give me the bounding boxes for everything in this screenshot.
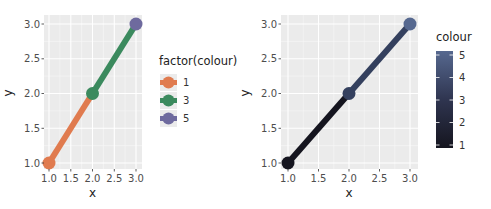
legend-label: 1 <box>183 77 189 88</box>
x-tick-label: 3.0 <box>128 173 144 184</box>
x-tick-label: 2.5 <box>106 173 122 184</box>
x-tick-label: 1.0 <box>41 173 57 184</box>
y-axis-title: y <box>238 89 252 96</box>
colourbar-label: 5 <box>459 50 465 61</box>
legend-label: 3 <box>183 95 189 106</box>
legend-title: factor(colour) <box>159 54 237 68</box>
colourbar <box>436 51 453 148</box>
legend-key: 3 <box>160 92 189 109</box>
data-point <box>130 18 143 31</box>
y-tick-label: 2.5 <box>261 53 277 64</box>
x-axis-2: 1.0 1.5 2.0 2.5 3.0 x <box>280 169 418 200</box>
legend-title: colour <box>436 30 472 44</box>
y-tick-label: 1.5 <box>261 123 277 134</box>
legend-label: 5 <box>183 113 189 124</box>
x-tick-label: 2.5 <box>372 173 388 184</box>
colourbar-label: 3 <box>459 95 465 106</box>
data-point <box>86 87 99 100</box>
chart-1: 1.0 1.5 2.0 2.5 3.0 y 1.0 1.5 2.0 2.5 3.… <box>1 15 237 200</box>
y-tick-label: 1.0 <box>261 158 277 169</box>
legend-key: 5 <box>160 110 189 127</box>
data-point <box>43 157 56 170</box>
colourbar-label: 2 <box>459 117 465 128</box>
y-tick-label: 1.0 <box>24 158 40 169</box>
y-axis-2: 1.0 1.5 2.0 2.5 3.0 y <box>238 19 281 169</box>
x-axis-title: x <box>345 186 352 200</box>
chart-2: 1.0 1.5 2.0 2.5 3.0 y 1.0 1.5 2.0 2.5 3.… <box>238 15 472 200</box>
figure: 1.0 1.5 2.0 2.5 3.0 y 1.0 1.5 2.0 2.5 3.… <box>0 0 491 209</box>
x-tick-label: 1.5 <box>311 173 327 184</box>
x-tick-label: 1.5 <box>63 173 79 184</box>
data-point <box>282 157 295 170</box>
data-point <box>343 87 356 100</box>
y-tick-label: 2.5 <box>24 53 40 64</box>
y-axis-title: y <box>1 89 15 96</box>
x-tick-label: 1.0 <box>280 173 296 184</box>
colourbar-label: 4 <box>459 72 465 83</box>
y-tick-label: 2.0 <box>261 88 277 99</box>
y-tick-label: 1.5 <box>24 123 40 134</box>
data-point <box>404 18 417 31</box>
legend-key: 1 <box>160 74 189 91</box>
x-tick-label: 2.0 <box>341 173 357 184</box>
x-tick-label: 2.0 <box>85 173 101 184</box>
legend-2: colour 1 2 3 4 5 <box>436 30 472 151</box>
y-tick-label: 3.0 <box>261 19 277 30</box>
y-axis-1: 1.0 1.5 2.0 2.5 3.0 y <box>1 19 44 169</box>
legend-1: factor(colour) 1 3 5 <box>159 54 237 127</box>
x-axis-title: x <box>89 186 96 200</box>
colourbar-label: 1 <box>459 140 465 151</box>
x-tick-label: 3.0 <box>402 173 418 184</box>
y-tick-label: 3.0 <box>24 19 40 30</box>
y-tick-label: 2.0 <box>24 88 40 99</box>
x-axis-1: 1.0 1.5 2.0 2.5 3.0 x <box>41 169 144 200</box>
